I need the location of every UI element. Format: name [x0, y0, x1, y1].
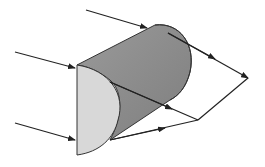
- diagram-canvas: [0, 0, 265, 167]
- arrow-top-incoming: [86, 10, 147, 28]
- half-cylinder-prism-diagram: [0, 0, 265, 167]
- arrow-bottom-incoming: [15, 123, 75, 140]
- ray-return: [198, 78, 248, 120]
- arrow-middle-incoming: [15, 52, 75, 68]
